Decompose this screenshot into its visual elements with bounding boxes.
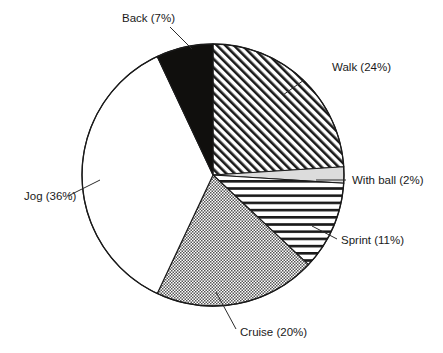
pie-wedges <box>82 44 344 306</box>
slice-label-sprint: Sprint (11%) <box>341 234 404 246</box>
pie-slice-walk[interactable] <box>213 44 344 175</box>
slice-label-cruise: Cruise (20%) <box>240 326 307 338</box>
slice-label-back: Back (7%) <box>122 12 175 24</box>
slice-label-walk: Walk (24%) <box>332 61 391 73</box>
slice-label-jog: Jog (36%) <box>24 190 77 202</box>
pie-chart-figure: Walk (24%)With ball (2%)Sprint (11%)Crui… <box>0 0 443 353</box>
leader-line-back <box>170 27 192 49</box>
pie-chart-canvas: Walk (24%)With ball (2%)Sprint (11%)Crui… <box>0 0 443 353</box>
slice-label-with-ball: With ball (2%) <box>352 174 424 186</box>
